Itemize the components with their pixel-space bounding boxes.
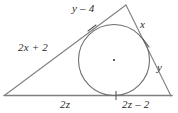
triangle-incircle-diagram	[0, 0, 178, 113]
label-bottom-right-segment: 2z – 2	[122, 99, 149, 110]
label-top-right-segment: x	[140, 19, 145, 30]
circle-center-dot	[113, 59, 115, 61]
geometry-figure: y – 4 x 2x + 2 y 2z 2z – 2	[0, 0, 178, 113]
label-left-side: 2x + 2	[18, 42, 48, 53]
label-right-side: y	[157, 62, 162, 73]
label-top-left-segment: y – 4	[72, 3, 94, 14]
label-bottom-left-segment: 2z	[60, 99, 70, 110]
